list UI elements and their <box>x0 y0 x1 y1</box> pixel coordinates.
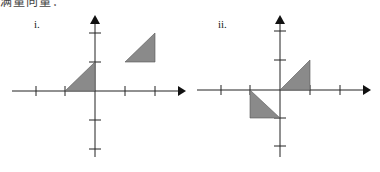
figure-ii: ii. <box>190 0 380 172</box>
coordinate-plane <box>190 0 380 172</box>
coordinate-plane <box>0 0 190 172</box>
figure-i: i. <box>0 0 190 172</box>
